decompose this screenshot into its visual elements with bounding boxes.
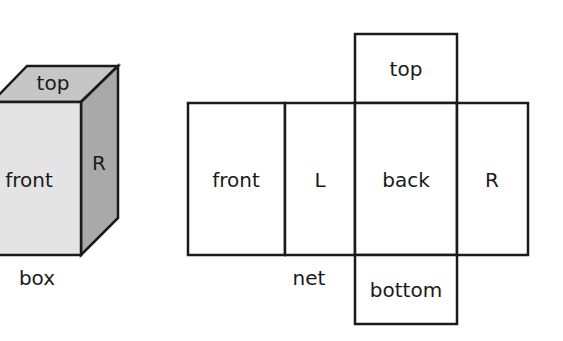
net-top-label: top (390, 57, 423, 81)
box-3d: top front R box (0, 66, 118, 290)
net-caption: net (293, 266, 326, 290)
net-back-label: back (382, 168, 430, 192)
box-right-label: R (92, 151, 106, 175)
box-top-label: top (37, 71, 70, 95)
box-caption: box (19, 266, 55, 290)
net-right-label: R (485, 168, 499, 192)
net-left-label: L (314, 168, 326, 192)
box-front-label: front (5, 168, 53, 192)
net-bottom-label: bottom (370, 278, 442, 302)
box-and-net-diagram: top front R box top front L back R botto… (0, 0, 563, 341)
net-front-label: front (212, 168, 260, 192)
